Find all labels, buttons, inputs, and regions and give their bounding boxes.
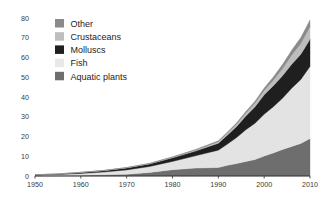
y-axis: 01020304050607080	[21, 14, 29, 181]
legend-label: Other	[71, 19, 94, 29]
y-tick-label: 40	[21, 93, 29, 102]
x-tick-label: 2000	[256, 180, 272, 189]
x-tick-label: 1970	[119, 180, 135, 189]
x-tick-label: 1950	[27, 180, 43, 189]
x-axis: 1950196019701980199020002010	[27, 176, 318, 189]
chart-legend: OtherCrustaceansMolluscsFishAquatic plan…	[55, 19, 128, 82]
legend-swatch	[55, 19, 64, 28]
y-tick-label: 50	[21, 73, 29, 82]
x-tick-label: 1960	[73, 180, 89, 189]
x-tick-label: 1990	[210, 180, 226, 189]
x-tick-label: 1980	[165, 180, 181, 189]
y-tick-label: 80	[21, 14, 29, 23]
legend-swatch	[55, 45, 64, 54]
legend-label: Aquatic plants	[71, 72, 128, 82]
y-tick-label: 30	[21, 112, 29, 121]
legend-swatch	[55, 72, 64, 81]
y-tick-label: 70	[21, 33, 29, 42]
legend-swatch	[55, 32, 64, 41]
stacked-area-chart: 01020304050607080 1950196019701980199020…	[0, 0, 323, 206]
legend-label: Fish	[71, 58, 88, 68]
x-tick-label: 2010	[302, 180, 318, 189]
chart-container: 01020304050607080 1950196019701980199020…	[0, 0, 323, 206]
legend-swatch	[55, 59, 64, 68]
y-tick-label: 60	[21, 53, 29, 62]
legend-label: Crustaceans	[71, 32, 122, 42]
legend-label: Molluscs	[71, 45, 107, 55]
chart-areas	[35, 20, 310, 176]
y-tick-label: 20	[21, 132, 29, 141]
y-tick-label: 10	[21, 152, 29, 161]
